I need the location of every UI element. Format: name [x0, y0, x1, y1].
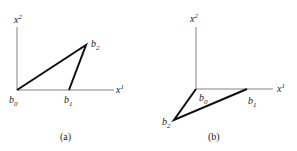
point-b1-label: b1	[64, 94, 73, 108]
x1-axis-label: x1	[115, 83, 124, 95]
triangle-edges	[17, 45, 86, 90]
caption-b: (b)	[208, 131, 220, 143]
point-b0-label: b0	[9, 94, 18, 108]
x2-axis-label: x2	[189, 12, 198, 24]
triangle-edges	[174, 89, 247, 120]
panel-a: x2 x1 b0 b1 b2 (a)	[9, 13, 124, 143]
x2-axis-label: x2	[13, 13, 22, 25]
figure: x2 x1 b0 b1 b2 (a) x2 x1 b0 b1 b2 (b)	[0, 0, 297, 151]
point-b0-label: b0	[199, 92, 208, 106]
panel-b: x2 x1 b0 b1 b2 (b)	[162, 12, 285, 143]
x1-axis-label: x1	[276, 82, 285, 94]
caption-a: (a)	[60, 131, 71, 143]
point-b1-label: b1	[248, 95, 257, 109]
point-b2-label: b2	[91, 38, 100, 52]
point-b2-label: b2	[162, 116, 171, 130]
